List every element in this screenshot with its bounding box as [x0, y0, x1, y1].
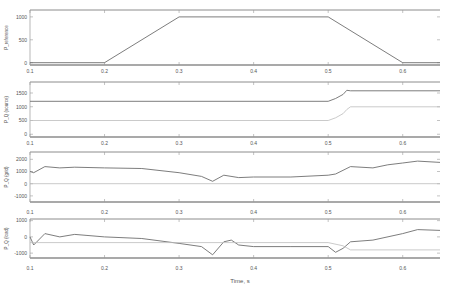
- subplot-1: 0.10.20.30.40.50.605001000P_reference: [4, 10, 440, 74]
- x-tick-label: 0.4: [250, 140, 257, 146]
- x-tick-label: 0.3: [176, 265, 183, 271]
- y-tick-label: 0: [24, 181, 27, 187]
- y-axis-label: P_Q (grid): [4, 166, 9, 187]
- y-tick-label: 1000: [16, 168, 27, 174]
- y-tick-label: 500: [19, 117, 28, 123]
- x-tick-label: 0.1: [27, 68, 34, 74]
- y-tick-label: 500: [19, 37, 28, 43]
- y-tick-label: -1000: [14, 250, 27, 256]
- x-tick-label: 0.5: [325, 265, 332, 271]
- x-tick-label: 0.2: [101, 209, 108, 215]
- x-tick-label: 0.6: [399, 140, 406, 146]
- x-tick-label: 0.4: [250, 68, 257, 74]
- x-tick-label: 0.2: [101, 68, 108, 74]
- y-tick-label: 2000: [16, 156, 27, 162]
- x-tick-label: 0.1: [27, 265, 34, 271]
- x-tick-label: 0.2: [101, 265, 108, 271]
- x-tick-label: 0.1: [27, 140, 34, 146]
- y-tick-label: 0: [24, 60, 27, 66]
- x-tick-label: 0.2: [101, 140, 108, 146]
- y-tick-label: 1000: [16, 104, 27, 110]
- multi-panel-line-chart: 0.10.20.30.40.50.605001000P_reference0.1…: [0, 0, 452, 292]
- series-line-p: [30, 161, 440, 181]
- x-axis-label: Time, s: [230, 278, 249, 284]
- x-tick-label: 0.5: [325, 68, 332, 74]
- x-tick-label: 0.4: [250, 209, 257, 215]
- x-tick-label: 0.5: [325, 140, 332, 146]
- series-line-p-reference: [30, 17, 440, 63]
- series-line-p: [30, 90, 440, 101]
- x-tick-label: 0.1: [27, 209, 34, 215]
- x-tick-label: 0.6: [399, 68, 406, 74]
- y-tick-label: 1000: [16, 217, 27, 223]
- y-axis-label: P_Q (source): [4, 96, 9, 123]
- x-tick-label: 0.6: [399, 209, 406, 215]
- y-tick-label: 1500: [16, 90, 27, 96]
- x-tick-label: 0.4: [250, 265, 257, 271]
- y-tick-label: -1000: [14, 193, 27, 199]
- x-tick-label: 0.3: [176, 140, 183, 146]
- x-tick-label: 0.3: [176, 68, 183, 74]
- x-tick-label: 0.3: [176, 209, 183, 215]
- y-axis-label: P_reference: [4, 25, 9, 50]
- series-line-q: [30, 243, 440, 250]
- x-tick-label: 0.6: [399, 265, 406, 271]
- subplot-2: 0.10.20.30.40.50.6050010001500P_Q (sourc…: [4, 82, 440, 146]
- subplot-4: 0.10.20.30.40.50.6-100001000P_Q (load): [4, 217, 440, 271]
- y-tick-label: 0: [24, 234, 27, 240]
- series-line-q: [30, 107, 440, 121]
- subplot-3: 0.10.20.30.40.50.6-1000010002000P_Q (gri…: [4, 152, 440, 215]
- y-tick-label: 1000: [16, 14, 27, 20]
- y-axis-label: P_Q (load): [4, 227, 9, 249]
- x-tick-label: 0.5: [325, 209, 332, 215]
- y-tick-label: 0: [24, 131, 27, 137]
